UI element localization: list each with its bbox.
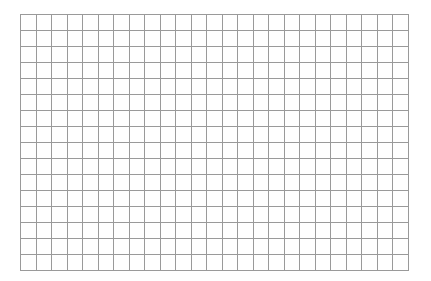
grid-paper [20, 14, 408, 270]
canvas [0, 0, 431, 281]
grid-lines [20, 14, 409, 271]
